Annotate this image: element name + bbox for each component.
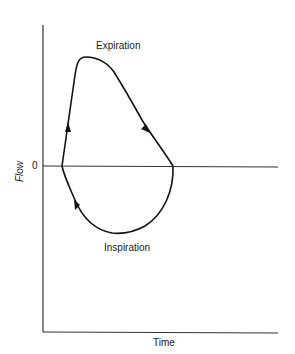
zero-baseline — [43, 166, 278, 167]
x-axis-label: Time — [153, 337, 175, 348]
x-axis — [43, 332, 278, 333]
zero-tick-label: 0 — [32, 160, 38, 171]
expiration-label: Expiration — [96, 40, 140, 51]
y-axis-label: Flow — [14, 160, 25, 184]
flow-time-diagram — [0, 0, 295, 354]
arrow-down-right-icon — [141, 124, 150, 133]
inspiration-label: Inspiration — [104, 242, 150, 253]
inspiration-curve — [62, 166, 173, 233]
expiration-curve — [62, 57, 173, 166]
arrow-up-icon — [65, 122, 71, 132]
